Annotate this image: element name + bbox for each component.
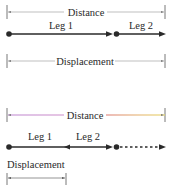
bottom-leg1-label: Leg 1 <box>28 131 52 142</box>
bottom-legs: Leg 1 Leg 2 <box>6 131 166 150</box>
bottom-distance-dimension: Distance <box>7 108 165 122</box>
top-leg2-arrowhead <box>159 31 166 37</box>
bottom-leg2-arrowhead <box>106 144 113 150</box>
top-distance-label: Distance <box>68 7 105 18</box>
top-displacement-label: Displacement <box>56 56 114 67</box>
bottom-displacement-dimension: Displacement <box>7 159 66 185</box>
top-displacement-dimension: Displacement <box>7 54 165 68</box>
top-leg1-arrowhead <box>106 31 113 37</box>
bottom-leg2-label: Leg 2 <box>76 131 100 142</box>
top-leg1-label: Leg 1 <box>49 20 73 31</box>
bottom-distance-label: Distance <box>67 110 104 121</box>
top-leg2-label: Leg 2 <box>129 20 153 31</box>
bottom-displacement-label: Displacement <box>7 159 65 170</box>
bottom-mid-dot <box>114 144 120 150</box>
top-legs: Leg 1 Leg 2 <box>6 20 166 37</box>
bottom-dotted-arrowhead <box>159 144 166 150</box>
diagram-canvas: Distance Leg 1 Leg 2 Displacement <box>0 0 172 185</box>
bottom-diagram: Distance Leg 1 Leg 2 Displacement <box>6 108 166 185</box>
top-distance-dimension: Distance <box>7 5 165 19</box>
top-diagram: Distance Leg 1 Leg 2 Displacement <box>6 5 166 68</box>
